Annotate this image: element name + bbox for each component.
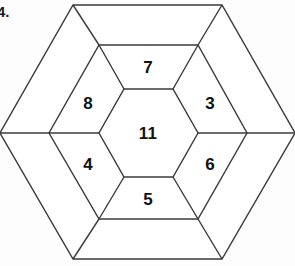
cell-value-upper-left: 8 (83, 95, 93, 112)
cell-value-bottom: 5 (143, 191, 153, 208)
hexagon-puzzle-figure: 4. 7 3 6 5 4 8 11 (0, 0, 295, 266)
cell-value-upper-right: 3 (205, 95, 215, 112)
cell-value-lower-left: 4 (83, 156, 93, 173)
cell-value-lower-right: 6 (205, 156, 215, 173)
cell-value-centre: 11 (139, 125, 157, 142)
cell-value-top: 7 (143, 59, 153, 76)
